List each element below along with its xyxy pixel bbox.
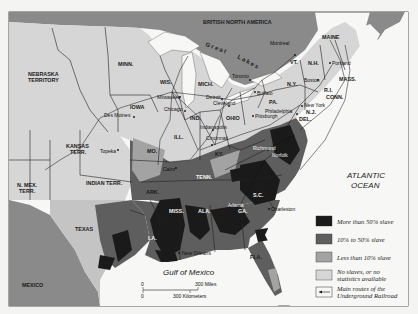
label-milwaukee: Milwaukee — [157, 94, 181, 100]
label-nc: N.C. — [262, 168, 273, 174]
label-nebraska-2: TERRITORY — [28, 77, 59, 83]
label-topeka: Topeka — [100, 148, 116, 154]
label-gulf-of-mexico: Gulf of Mexico — [163, 268, 215, 277]
label-atlantic-1: ATLANTIC — [346, 171, 385, 180]
legend-swatch-10-50 — [316, 234, 332, 244]
label-indianapolis: Indianapolis — [200, 124, 227, 130]
label-richmond: Richmond — [253, 145, 276, 151]
label-ky: KY. — [215, 151, 224, 157]
scale-km: 300 Kilometers — [173, 293, 207, 299]
label-iowa: IOWA — [130, 104, 144, 110]
legend-label-none-2: statistics available — [337, 275, 386, 282]
legend-swatch-none — [316, 270, 332, 280]
label-cairo: Cairo — [163, 166, 175, 172]
label-fla: FLA. — [250, 254, 262, 260]
label-pa: PA. — [269, 99, 278, 105]
label-pittsburgh: Pittsburgh — [255, 113, 278, 119]
scale-zero-miles: 0 — [141, 281, 144, 287]
label-nj: N.J. — [306, 109, 316, 115]
legend-label-routes-2: Underground Railroad — [337, 292, 398, 299]
label-nh: N.H. — [308, 60, 319, 66]
legend-label-under10: Less than 10% slave — [336, 254, 391, 261]
legend-label-over50: More than 50% slave — [336, 218, 393, 225]
scale-miles: 300 Miles — [195, 281, 217, 287]
legend-swatch-under10 — [316, 252, 332, 262]
label-indian-terr: INDIAN TERR. — [86, 180, 123, 186]
label-buffalo: Buffalo — [257, 90, 273, 96]
label-boston: Boston — [304, 77, 320, 83]
label-kansas-2: TERR. — [70, 149, 87, 155]
label-ohio: OHIO — [226, 115, 240, 121]
label-minn: MINN. — [118, 61, 134, 67]
legend-swatch-over50 — [316, 216, 332, 226]
label-ny: N.Y. — [287, 81, 297, 87]
label-la: LA. — [148, 235, 157, 241]
label-mo: MO. — [147, 148, 158, 154]
label-cleveland: Cleveland — [213, 100, 235, 106]
label-vt: VT. — [290, 59, 298, 65]
label-chicago: Chicago — [164, 106, 183, 112]
legend-label-none-1: No slaves, or no — [336, 268, 381, 275]
label-ind: IND. — [190, 115, 201, 121]
label-va: VA. — [276, 145, 285, 151]
label-wis: WIS. — [160, 79, 172, 85]
label-tenn: TENN. — [196, 174, 213, 180]
label-british-north-america: BRITISH NORTH AMERICA — [203, 19, 272, 25]
label-ga: GA. — [238, 208, 248, 214]
label-conn: CONN. — [326, 94, 344, 100]
label-del: DEL. — [299, 116, 312, 122]
label-new-orleans: New Orleans — [182, 250, 211, 256]
label-sc: S.C. — [253, 192, 264, 198]
label-ala: ALA. — [198, 208, 211, 214]
legend-label-10-50: 10% to 50% slave — [337, 236, 385, 243]
label-mass: MASS. — [339, 76, 357, 82]
label-ill: ILL. — [174, 134, 184, 140]
label-nmex-2: TERR. — [19, 188, 36, 194]
label-ark: ARK. — [146, 189, 160, 195]
label-mich: MICH. — [198, 81, 214, 87]
label-maine: MAINE — [322, 34, 340, 40]
underground-railroad-map: BRITISH NORTH AMERICA Great Lakes MEXICO… — [0, 0, 418, 314]
label-des-moines: Des Moines — [104, 112, 131, 118]
label-cincinnati: Cincinnati — [206, 135, 228, 141]
label-new-york: New York — [304, 102, 326, 108]
label-md: MD. — [283, 128, 293, 134]
legend-label-routes-1: Main routes of the — [336, 285, 385, 292]
label-mexico: MEXICO — [22, 282, 43, 288]
label-charleston: Charleston — [271, 206, 295, 212]
label-montreal: Montreal — [270, 40, 289, 46]
label-toronto: Toronto — [232, 73, 249, 79]
scale-zero-km: 0 — [141, 293, 144, 299]
label-portland: Portland — [332, 60, 351, 66]
label-ri: R.I. — [324, 87, 333, 93]
label-norfolk: Norfolk — [272, 152, 288, 158]
label-atlanta: Atlanta — [228, 202, 244, 208]
label-miss: MISS. — [169, 208, 184, 214]
label-atlantic-2: OCEAN — [351, 181, 380, 190]
label-texas: TEXAS — [75, 226, 93, 232]
